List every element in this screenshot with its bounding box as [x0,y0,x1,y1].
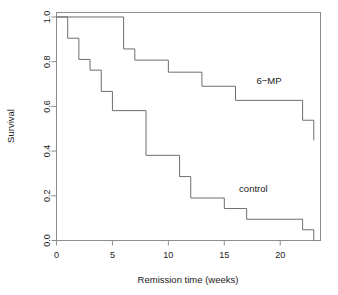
survival-plot-svg: 05101520 0.00.20.40.60.81.0 Remission ti… [0,0,338,295]
y-tick-label-0.4: 0.4 [42,145,52,158]
series-label-control: control [239,183,268,194]
x-tick-label-10: 10 [163,250,173,260]
x-tick-label-20: 20 [275,250,285,260]
y-tick-label-0.6: 0.6 [42,100,52,113]
y-tick-label-1.0: 1.0 [42,11,52,24]
y-axis-title: Survival [5,109,16,143]
series-label-6-mp: 6−MP [256,75,281,86]
x-tick-label-0: 0 [54,250,59,260]
y-tick-label-0.0: 0.0 [42,234,52,247]
x-tick-label-5: 5 [110,250,115,260]
survival-chart-figure: 05101520 0.00.20.40.60.81.0 Remission ti… [0,0,338,295]
y-tick-label-0.8: 0.8 [42,55,52,68]
y-tick-label-0.2: 0.2 [42,190,52,203]
x-tick-label-15: 15 [219,250,229,260]
x-axis-title: Remission time (weeks) [138,274,239,285]
